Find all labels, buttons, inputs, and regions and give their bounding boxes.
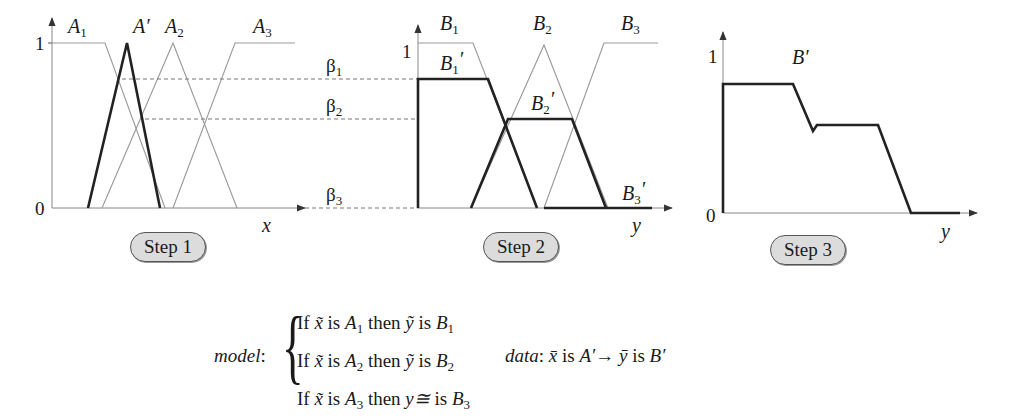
curve-B2 bbox=[471, 45, 608, 208]
step3-badge: Step 3 bbox=[770, 235, 846, 265]
step3-tick-label-0: 0 bbox=[706, 205, 716, 226]
label-beta3: β3 bbox=[326, 184, 342, 208]
curve-A3 bbox=[173, 43, 295, 208]
rule-list: If x̃ is A1 then ỹ is B1 If x̃ is A2 the… bbox=[297, 311, 470, 417]
label-B2-prime: B2′ bbox=[531, 88, 555, 117]
model-label: model: bbox=[214, 344, 266, 368]
step3-chart: 1 0 y B′ bbox=[706, 32, 977, 243]
step1-badge: Step 1 bbox=[130, 232, 206, 262]
label-A3: A3 bbox=[251, 15, 272, 40]
data-statement: data: x̄ is A′→ ȳ is B′ bbox=[505, 344, 665, 368]
label-beta2: β2 bbox=[326, 95, 342, 119]
step1-tick-label-1: 1 bbox=[35, 33, 45, 54]
step1-x-label: x bbox=[261, 214, 271, 236]
step3-x-label: y bbox=[939, 220, 950, 243]
label-beta1: β1 bbox=[326, 55, 342, 79]
rule-1: If x̃ is A1 then ỹ is B1 bbox=[297, 311, 470, 341]
rule-2: If x̃ is A2 then ỹ is B2 bbox=[297, 349, 470, 379]
label-A-prime: A′ bbox=[131, 15, 150, 37]
label-B1: B1 bbox=[440, 12, 459, 37]
label-B3: B3 bbox=[621, 12, 640, 37]
step2-tick-label-1: 1 bbox=[402, 41, 412, 62]
label-A1: A1 bbox=[66, 15, 87, 40]
step1-chart: 1 0 x A1 A′ A2 A3 β1 β2 β3 bbox=[35, 15, 418, 236]
label-A2: A2 bbox=[163, 15, 184, 40]
curve-B1 bbox=[418, 43, 537, 208]
label-B-prime: B′ bbox=[792, 46, 809, 68]
step2-x-label: y bbox=[630, 214, 641, 237]
label-B1-prime: B1′ bbox=[440, 48, 464, 77]
step2-badge: Step 2 bbox=[483, 232, 559, 262]
step2-chart: 1 y B1 B2 B3 B1′ B2′ B3′ bbox=[402, 12, 672, 237]
step3-tick-label-1: 1 bbox=[708, 46, 718, 67]
curve-B-prime-result bbox=[723, 84, 960, 213]
step1-tick-label-0: 0 bbox=[35, 198, 45, 219]
curve-A-prime bbox=[88, 43, 160, 208]
rule-3: If x̃ is A3 then y≅ is B3 bbox=[297, 387, 470, 417]
label-B2: B2 bbox=[533, 12, 552, 37]
curve-B1-prime bbox=[418, 79, 537, 208]
label-B3-prime: B3′ bbox=[622, 178, 646, 207]
